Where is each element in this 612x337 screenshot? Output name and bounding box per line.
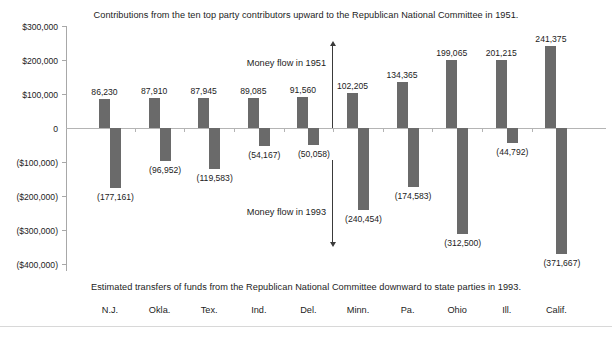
zero-baseline [66, 128, 606, 129]
bar-value-label-positive: 91,560 [290, 85, 316, 95]
x-axis-tick-mark [532, 128, 533, 132]
category-label: Calif. [546, 305, 567, 315]
chart-caption: Estimated transfers of funds from the Re… [91, 283, 521, 292]
x-axis-tick-mark [184, 128, 185, 132]
bar-negative [209, 128, 220, 169]
category-label: Ill. [502, 305, 511, 315]
category-label: N.J. [102, 305, 118, 315]
bar-positive [99, 99, 110, 128]
bar-value-label-positive: 201,215 [486, 48, 517, 58]
bar-value-label-negative: (174,583) [395, 191, 432, 201]
bar-negative [259, 128, 270, 146]
chart-title: Contributions from the ten top party con… [94, 11, 519, 20]
money-flow-down-label: Money flow in 1993 [247, 207, 326, 217]
category-label: Ind. [251, 305, 266, 315]
category-label: Tex. [201, 305, 218, 315]
y-axis-line [66, 26, 67, 271]
bar-value-label-negative: (240,454) [345, 214, 382, 224]
x-axis-tick-mark [234, 128, 235, 132]
category-label: Okla. [149, 305, 170, 315]
category-label: Pa. [401, 305, 415, 315]
bar-positive [347, 93, 358, 128]
category-label: Ohio [447, 305, 466, 315]
bar-value-label-positive: 241,375 [535, 34, 566, 44]
bar-value-label-negative: (119,583) [197, 173, 233, 183]
money-flow-up-arrow-head [330, 41, 336, 46]
bar-positive [248, 98, 259, 128]
bar-value-label-negative: (54,167) [248, 150, 280, 160]
bar-negative [160, 128, 171, 161]
bar-value-label-negative: (177,161) [97, 192, 134, 202]
y-axis-tick-labels: $300,000$200,000$100,0000($100,000)($200… [0, 0, 58, 337]
y-axis-tick-label: ($400,000) [16, 260, 58, 270]
bar-negative [358, 128, 369, 210]
bar-positive [297, 97, 308, 128]
y-axis-tick-label: 0 [53, 124, 58, 134]
bar-value-label-negative: (96,952) [149, 165, 181, 175]
bar-positive [397, 82, 408, 128]
y-axis-tick-label: $100,000 [22, 90, 58, 100]
category-label: Del. [300, 305, 316, 315]
money-flow-up-label: Money flow in 1951 [247, 58, 326, 68]
bar-value-label-positive: 89,085 [240, 86, 266, 96]
x-axis-tick-mark [284, 128, 285, 132]
y-axis-tick-label: $300,000 [22, 22, 58, 32]
money-flow-down-arrow-shaft [332, 160, 333, 242]
bar-positive [545, 46, 556, 128]
bar-value-label-positive: 86,230 [91, 87, 117, 97]
category-label: Minn. [347, 305, 369, 315]
y-axis-tick-label: $200,000 [22, 56, 58, 66]
bottom-divider [0, 326, 612, 327]
bar-negative [556, 128, 567, 254]
money-flow-up-arrow-shaft [332, 46, 333, 128]
bar-value-label-positive: 199,065 [436, 48, 467, 58]
bar-value-label-positive: 102,205 [337, 81, 368, 91]
bar-positive [149, 98, 160, 128]
bar-value-label-negative: (44,792) [496, 147, 528, 157]
bar-positive [198, 98, 209, 128]
x-axis-tick-mark [383, 128, 384, 132]
bar-value-label-negative: (312,500) [444, 238, 481, 248]
bar-value-label-positive: 87,910 [141, 86, 167, 96]
money-flow-down-arrow-head [330, 242, 336, 247]
bar-positive [446, 60, 457, 128]
bar-positive [496, 60, 507, 128]
x-axis-tick-mark [482, 128, 483, 132]
y-axis-tick-label: ($100,000) [16, 158, 58, 168]
x-axis-tick-mark [432, 128, 433, 132]
bar-value-label-positive: 87,945 [191, 86, 217, 96]
chart-figure: Contributions from the ten top party con… [0, 0, 612, 337]
bar-negative [408, 128, 419, 187]
bar-negative [457, 128, 468, 234]
bar-value-label-negative: (371,667) [543, 258, 580, 268]
x-axis-tick-mark [333, 128, 334, 132]
y-axis-tick-label: ($300,000) [16, 226, 58, 236]
bar-negative [507, 128, 518, 143]
bar-negative [308, 128, 319, 145]
x-axis-tick-mark [135, 128, 136, 132]
bar-value-label-negative: (50,058) [298, 149, 330, 159]
bar-value-label-positive: 134,365 [387, 70, 418, 80]
y-axis-tick-label: ($200,000) [16, 192, 58, 202]
bar-negative [110, 128, 121, 188]
